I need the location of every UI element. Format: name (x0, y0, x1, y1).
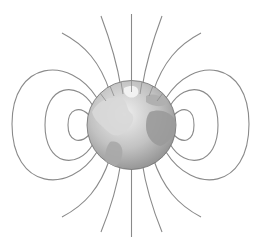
magnetic-field-diagram (0, 0, 263, 244)
earth-globe (87, 80, 176, 170)
field-loops-left (12, 70, 97, 180)
field-loops-right (166, 70, 249, 180)
